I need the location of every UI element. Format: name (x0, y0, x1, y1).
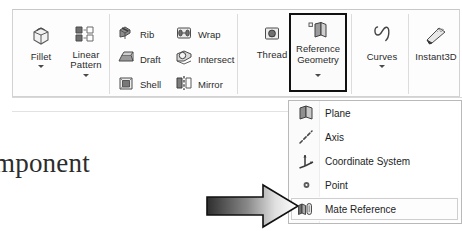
ribbon-button-label: Curves (357, 52, 407, 63)
ribbon-button-shell[interactable]: Shell (117, 74, 161, 94)
ribbon-separator (351, 14, 352, 94)
ribbon-button-rib[interactable]: Rib (117, 24, 154, 44)
ribbon-button-curves[interactable]: Curves (357, 24, 407, 68)
plane-icon (295, 104, 317, 122)
gradient-pointer-arrow (205, 182, 301, 230)
ribbon-button-label: Fillet (19, 52, 63, 63)
ribbon-button-intersect[interactable]: Intersect (175, 49, 234, 69)
curves-icon (357, 24, 407, 49)
document-body-text: mponent (0, 148, 90, 179)
ribbon-button-instant3d[interactable]: Instant3D (411, 24, 461, 62)
menu-item-point[interactable]: Point (289, 173, 461, 197)
ribbon-separator (109, 14, 110, 94)
chevron-down-icon[interactable] (38, 65, 44, 68)
menu-item-label: Coordinate System (325, 156, 410, 167)
linear-pattern-icon (63, 24, 109, 47)
mate-reference-icon (295, 200, 317, 218)
coordinate-system-icon (295, 152, 317, 170)
menu-item-axis[interactable]: Axis (289, 125, 461, 149)
ribbon-button-label: Shell (140, 79, 161, 90)
instant3d-icon (411, 24, 461, 49)
ribbon-button-mirror[interactable]: Mirror (175, 74, 223, 94)
point-icon (295, 176, 317, 194)
chevron-down-icon[interactable] (83, 74, 89, 77)
ribbon-separator (237, 14, 238, 94)
chevron-down-icon[interactable] (379, 65, 385, 68)
ribbon-button-label: Draft (140, 54, 161, 65)
rib-icon (117, 24, 135, 44)
ribbon-button-linear-pattern[interactable]: Linear Pattern (63, 24, 109, 77)
ribbon-button-label-line2: Geometry (297, 54, 339, 65)
menu-item-label: Point (325, 180, 348, 191)
chevron-down-icon[interactable] (315, 74, 321, 77)
ribbon-button-label: Rib (140, 29, 154, 40)
ribbon-bottom-rule (12, 97, 462, 98)
ribbon-button-label: Intersect (198, 54, 234, 65)
mirror-icon (175, 74, 193, 94)
ribbon-button-label: Wrap (198, 29, 221, 40)
menu-item-label: Mate Reference (325, 204, 396, 215)
draft-icon (117, 49, 135, 69)
ribbon-button-label: Reference (296, 43, 340, 54)
shell-icon (117, 74, 135, 94)
intersect-icon (175, 49, 193, 69)
ribbon-separator (408, 14, 409, 94)
menu-item-mate-reference[interactable]: Mate Reference (289, 197, 461, 221)
ribbon-button-wrap[interactable]: Wrap (175, 24, 221, 44)
ribbon-button-label: Mirror (198, 79, 223, 90)
reference-geometry-dropdown-menu: Plane Axis Coordinate System (288, 100, 462, 224)
menu-item-plane[interactable]: Plane (289, 101, 461, 125)
menu-item-coordinate-system[interactable]: Coordinate System (289, 149, 461, 173)
wrap-icon (175, 24, 193, 44)
reference-geometry-content: Reference Geometry (291, 21, 345, 77)
ribbon-button-reference-geometry[interactable]: Reference Geometry (289, 13, 347, 92)
ribbon-button-fillet[interactable]: Fillet (19, 24, 63, 68)
menu-item-label: Plane (325, 108, 351, 119)
ribbon-button-draft[interactable]: Draft (117, 49, 161, 69)
ribbon-button-label-line2: Pattern (63, 60, 109, 71)
ribbon-button-label: Instant3D (411, 52, 461, 63)
features-ribbon-panel: Fillet Linear Pattern Rib (12, 9, 460, 97)
fillet-icon (19, 24, 63, 49)
axis-icon (295, 128, 317, 146)
menu-item-label: Axis (325, 132, 344, 143)
reference-geometry-icon (306, 32, 330, 43)
